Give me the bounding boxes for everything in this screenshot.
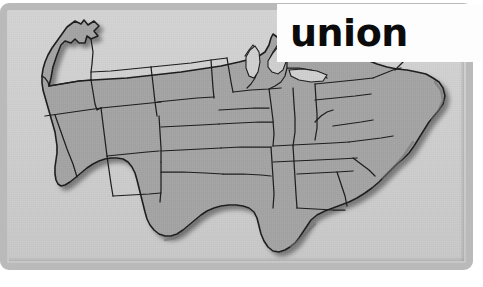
top-white-margin: [0, 0, 483, 3]
bottom-white-margin: [0, 270, 483, 287]
word-label-text: union: [290, 14, 408, 52]
word-label-box: union: [277, 4, 483, 62]
flashcard-image: union: [0, 0, 483, 287]
